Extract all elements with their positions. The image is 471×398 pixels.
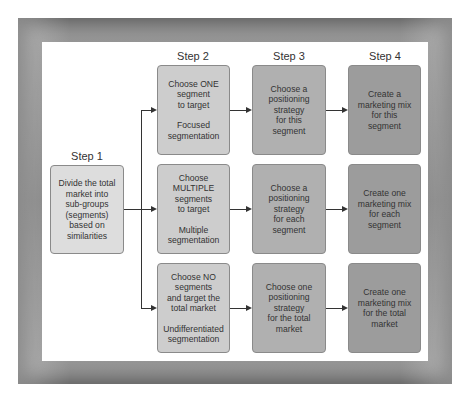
text-line: positioning <box>268 94 309 105</box>
text-line: positioning <box>268 193 309 204</box>
text-line: segment <box>273 126 306 137</box>
segmentation-type: Undifferentiated <box>163 324 224 335</box>
text-line: MULTIPLE <box>173 183 214 194</box>
text-line: marketing mix <box>358 199 411 210</box>
connector <box>230 308 246 309</box>
step-1-box: Divide the total market into sub-groups … <box>50 165 124 254</box>
text-line: (segments) <box>59 210 116 221</box>
segmentation-type: segmentation <box>168 131 220 142</box>
text-line: marketing mix <box>358 100 411 111</box>
row-2-step-4-box: Create one marketing mix for each segmen… <box>348 164 421 254</box>
connector <box>230 209 246 210</box>
text-line: strategy <box>274 105 305 116</box>
connector <box>326 110 342 111</box>
text-line: Create one <box>363 188 406 199</box>
text-line: Choose a <box>271 84 308 95</box>
text-line: segment <box>368 121 401 132</box>
text-line: for each <box>369 209 400 220</box>
connector-row-1 <box>141 110 151 111</box>
text-line: to target <box>178 100 210 111</box>
text-line: similarities <box>59 231 116 242</box>
text-line: segment <box>273 225 306 236</box>
connector <box>326 308 342 309</box>
row-3-step-3-box: Choose one positioning strategy for the … <box>252 263 326 353</box>
text-line: market <box>276 324 302 335</box>
text-line: for the total <box>363 308 406 319</box>
text-line: market into <box>59 189 116 200</box>
segmentation-type: Multiple <box>179 225 209 236</box>
connector <box>230 110 246 111</box>
text-line: for this <box>372 110 398 121</box>
text-line: segments <box>175 282 212 293</box>
connector <box>326 209 342 210</box>
text-line: Divide the total <box>59 178 116 189</box>
text-line: for each <box>273 214 304 225</box>
step-1-text: Divide the total market into sub-groups … <box>59 178 116 241</box>
text-line: total market <box>171 303 216 314</box>
text-line: marketing mix <box>358 298 411 309</box>
text-line: Choose NO <box>171 272 216 283</box>
text-line: for the total <box>268 313 311 324</box>
text-line: to target <box>178 204 210 215</box>
text-line: segments <box>175 194 212 205</box>
step-1-label: Step 1 <box>47 150 127 162</box>
connector-row-2 <box>141 209 151 210</box>
text-line: strategy <box>274 303 305 314</box>
text-line: Choose a <box>271 183 308 194</box>
row-3-step-2-box: Choose NO segments and target the total … <box>157 263 230 353</box>
row-1-step-2-box: Choose ONE segment to target Focused seg… <box>157 65 230 155</box>
connector-step1 <box>124 209 141 210</box>
row-2-step-3-box: Choose a positioning strategy for each s… <box>252 164 326 254</box>
text-line: strategy <box>274 204 305 215</box>
text-line: market <box>371 319 397 330</box>
text-line: based on <box>59 220 116 231</box>
row-2-step-2-box: Choose MULTIPLE segments to target Multi… <box>157 164 230 254</box>
segmentation-type: segmentation <box>168 334 220 345</box>
step-4-label: Step 4 <box>345 50 425 62</box>
text-line: Choose ONE <box>168 79 219 90</box>
text-line: sub-groups <box>59 199 116 210</box>
text-line: for this <box>276 115 302 126</box>
row-1-step-4-box: Create a marketing mix for this segment <box>348 65 421 155</box>
segmentation-type: segmentation <box>168 235 220 246</box>
text-line: Create a <box>368 89 401 100</box>
step-3-label: Step 3 <box>249 50 329 62</box>
text-line: Choose <box>179 173 209 184</box>
text-line: positioning <box>268 292 309 303</box>
row-1-step-3-box: Choose a positioning strategy for this s… <box>252 65 326 155</box>
connector-row-3 <box>141 308 151 309</box>
text-line: segment <box>368 220 401 231</box>
text-line: Create one <box>363 287 406 298</box>
segmentation-type: Focused <box>177 120 210 131</box>
text-line: segment <box>177 89 210 100</box>
row-3-step-4-box: Create one marketing mix for the total m… <box>348 263 421 353</box>
step-2-label: Step 2 <box>153 50 233 62</box>
text-line: Choose one <box>266 282 312 293</box>
text-line: and target the <box>167 293 220 304</box>
